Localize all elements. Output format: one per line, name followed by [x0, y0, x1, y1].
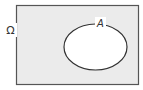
set-a-label: A [96, 18, 104, 29]
set-a-ellipse [64, 24, 127, 70]
venn-diagram: Ω A [0, 0, 143, 90]
universal-set-label: Ω [6, 24, 14, 37]
